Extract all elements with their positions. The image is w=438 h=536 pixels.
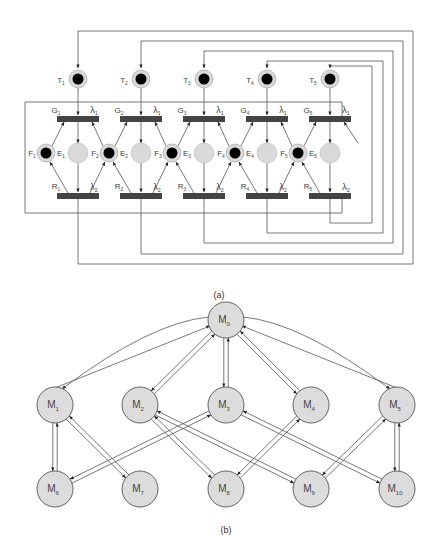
label-e4: E4 xyxy=(246,149,254,159)
place-e2 xyxy=(131,143,151,163)
label-t2: T2 xyxy=(120,76,128,86)
arc-f-g-right xyxy=(218,122,229,146)
transition-g4 xyxy=(246,116,288,122)
label-e3: E3 xyxy=(183,149,191,159)
label-e1: E1 xyxy=(57,149,65,159)
edge-M5-M9 xyxy=(322,416,382,475)
label-f1: F1 xyxy=(28,149,36,159)
token-icon xyxy=(41,148,52,159)
place-e5 xyxy=(320,143,340,163)
token-icon xyxy=(325,74,336,85)
rate-label-lambda1: λ1 xyxy=(342,105,350,116)
label-r5: R5 xyxy=(304,182,313,192)
transition-g1 xyxy=(57,116,99,122)
transition-r5 xyxy=(309,193,351,199)
rate-label-lambda2: λ2 xyxy=(279,182,287,193)
label-g5: G5 xyxy=(304,106,313,116)
petri-net-figure: T1G1F1E1R1λ1λ2T2G2F2E2R2λ1λ2T3G3F3E3R3λ1… xyxy=(0,0,438,536)
arc-f-g-right xyxy=(155,122,166,146)
transition-g3 xyxy=(183,116,225,122)
label-f4: F4 xyxy=(217,149,225,159)
label-r4: R4 xyxy=(241,182,250,192)
edge-M0-M1 xyxy=(62,317,209,389)
edge-M0-M4 xyxy=(237,334,297,394)
edge-M5-M0 xyxy=(242,326,401,390)
edge-M9-M5 xyxy=(325,419,385,478)
place-e1 xyxy=(68,143,88,163)
token-icon xyxy=(104,148,115,159)
label-r2: R2 xyxy=(115,182,124,192)
rate-label-lambda2: λ2 xyxy=(153,182,161,193)
token-icon xyxy=(136,74,147,85)
edge-M4-M0 xyxy=(240,331,300,391)
label-e2: E2 xyxy=(120,149,128,159)
arc-f-g-left xyxy=(304,122,316,146)
transition-r4 xyxy=(246,193,288,199)
arc-f-g-right xyxy=(92,122,103,146)
label-f3: F3 xyxy=(154,149,162,159)
edge-M4-M8 xyxy=(237,416,296,475)
edge-M0-M5 xyxy=(243,317,390,389)
label-t3: T3 xyxy=(183,76,191,86)
label-r3: R3 xyxy=(178,182,187,192)
token-icon xyxy=(262,74,273,85)
arc-f-g-right xyxy=(344,122,358,143)
transition-g2 xyxy=(120,116,162,122)
petri-net-diagram: T1G1F1E1R1λ1λ2T2G2F2E2R2λ1λ2T3G3F3E3R3λ1… xyxy=(25,31,413,264)
label-g1: G1 xyxy=(52,106,61,116)
transition-r1 xyxy=(57,193,99,199)
arc-f-g-left xyxy=(115,122,127,146)
token-icon xyxy=(167,148,178,159)
edge-M1-M7 xyxy=(66,419,125,478)
label-g4: G4 xyxy=(241,106,250,116)
label-e5: E5 xyxy=(309,149,317,159)
edge-M1-M0 xyxy=(51,326,210,390)
rate-label-lambda1: λ1 xyxy=(90,105,98,116)
rate-label-lambda2: λ2 xyxy=(90,182,98,193)
caption-a: (a) xyxy=(214,290,225,300)
label-g2: G2 xyxy=(115,106,124,116)
caption-b: (b) xyxy=(221,525,232,535)
label-g3: G3 xyxy=(178,106,187,116)
rate-label-lambda1: λ1 xyxy=(216,105,224,116)
edge-M2-M0 xyxy=(154,334,214,394)
token-icon xyxy=(73,74,84,85)
token-icon xyxy=(293,148,304,159)
arc-f-g-left xyxy=(52,122,64,146)
rate-label-lambda1: λ1 xyxy=(279,105,287,116)
rate-label-lambda2: λ2 xyxy=(342,182,350,193)
edge-M7-M1 xyxy=(69,416,128,475)
arc-f-g-left xyxy=(241,122,253,146)
label-t1: T1 xyxy=(57,76,65,86)
rate-label-lambda1: λ1 xyxy=(153,105,161,116)
edge-M8-M4 xyxy=(240,419,299,478)
token-icon xyxy=(199,74,210,85)
transition-r3 xyxy=(183,193,225,199)
edge-M0-M2 xyxy=(151,331,211,391)
state-graph-diagram: M0M1M2M3M4M5M6M7M8M9M10 xyxy=(37,302,415,507)
place-e3 xyxy=(194,143,214,163)
transition-r2 xyxy=(120,193,162,199)
label-t4: T4 xyxy=(246,76,254,86)
place-e4 xyxy=(257,143,277,163)
token-icon xyxy=(230,148,241,159)
label-f2: F2 xyxy=(91,149,99,159)
label-f5: F5 xyxy=(280,149,288,159)
transition-g5 xyxy=(309,116,351,122)
rate-label-lambda2: λ2 xyxy=(216,182,224,193)
return-arc-5 xyxy=(330,66,372,223)
label-r1: R1 xyxy=(52,182,61,192)
arc-f-g-right xyxy=(281,122,292,146)
arc-f-g-left xyxy=(178,122,190,146)
label-t5: T5 xyxy=(309,76,317,86)
